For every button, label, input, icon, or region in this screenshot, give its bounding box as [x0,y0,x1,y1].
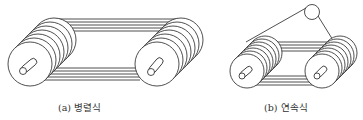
pulley-diagram [0,0,363,100]
panel-b-slack-rope [246,8,306,42]
caption-continuous: (b) 연속식 [264,100,308,114]
panel-a-left-pulley [8,18,76,86]
panel-b-continuous-drive [230,5,357,89]
panel-b-right-pulley [305,36,357,88]
caption-parallel: (a) 병렬식 [58,100,101,114]
panel-a-parallel-drive [8,18,203,86]
panel-b-left-pulley [230,36,282,88]
panel-b-idler-pulley [305,5,320,20]
